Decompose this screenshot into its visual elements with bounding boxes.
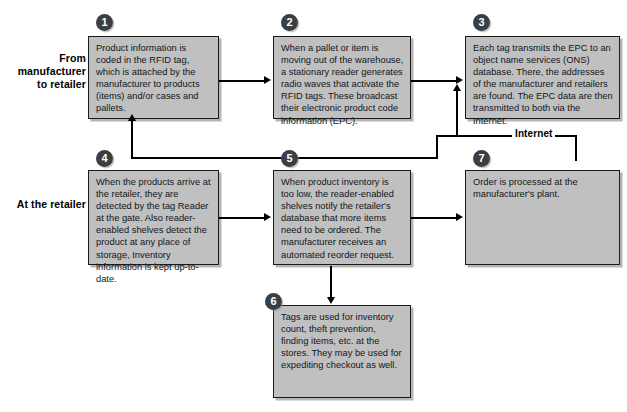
step-6-badge: 6 <box>265 293 282 310</box>
step-7-badge: 7 <box>473 150 490 167</box>
internet-label: Internet <box>512 128 555 139</box>
row-label-manufacturer: From manufacturer to retailer <box>0 52 86 91</box>
step-2-box[interactable]: When a pallet or item is moving out of t… <box>273 36 411 119</box>
connector-4-to-5 <box>219 217 265 219</box>
arrowhead-2-to-3 <box>456 76 463 84</box>
connector-internet-right-drop <box>575 135 577 161</box>
step-6-box[interactable]: Tags are used for inventory count, theft… <box>273 305 411 398</box>
arrowhead-riser-to-1 <box>128 114 136 121</box>
arrowhead-1-to-2 <box>264 76 271 84</box>
step-7-box[interactable]: Order is processed at the manufacturer's… <box>465 170 620 265</box>
step-4-box[interactable]: When the products arrive at the retailer… <box>88 170 219 265</box>
step-4-badge: 4 <box>96 150 113 167</box>
step-1-text: Product information is coded in the RFID… <box>96 42 212 115</box>
step-1-badge: 1 <box>96 14 113 31</box>
arrowhead-4-to-5 <box>264 213 271 221</box>
step-2-text: When a pallet or item is moving out of t… <box>281 42 404 127</box>
arrowhead-internet-riser <box>453 84 461 91</box>
step-2-badge: 2 <box>281 14 298 31</box>
step-3-text: Each tag transmits the EPC to an object … <box>473 42 613 127</box>
connector-internet-riser <box>456 88 458 136</box>
arrowhead-5-to-6 <box>327 297 335 304</box>
step-5-box[interactable]: When product inventory is too low, the r… <box>273 170 411 265</box>
row-label-retailer: At the retailer <box>0 198 86 211</box>
arrowhead-5-to-7 <box>456 213 463 221</box>
step-4-text: When the products arrive at the retailer… <box>96 176 212 285</box>
connector-riser-to-1 <box>131 119 133 158</box>
connector-2-to-3 <box>411 80 457 82</box>
step-6-text: Tags are used for inventory count, theft… <box>281 311 404 371</box>
step-7-text: Order is processed at the manufacturer's… <box>473 176 613 200</box>
diagram-canvas: From manufacturer to retailer At the ret… <box>0 0 627 412</box>
connector-1-to-2 <box>219 80 265 82</box>
step-3-badge: 3 <box>473 14 490 31</box>
step-3-box[interactable]: Each tag transmits the EPC to an object … <box>465 36 620 119</box>
step-5-badge: 5 <box>281 150 298 167</box>
step-1-box[interactable]: Product information is coded in the RFID… <box>88 36 219 119</box>
connector-5-to-7 <box>411 217 457 219</box>
connector-internet-left-drop <box>436 135 438 158</box>
step-5-text: When product inventory is too low, the r… <box>281 176 404 261</box>
connector-5-to-6 <box>330 266 332 301</box>
